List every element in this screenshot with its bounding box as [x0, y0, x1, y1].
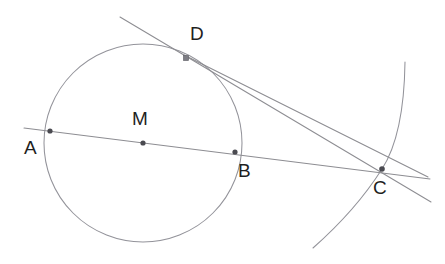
point-marker-a [47, 128, 52, 133]
point-marker-m [140, 140, 145, 145]
point-label-c: C [373, 178, 387, 197]
point-label-b: B [238, 161, 251, 180]
point-marker-c [379, 166, 385, 172]
line-tangent-dc [120, 17, 431, 202]
point-label-a: A [24, 138, 37, 157]
geometry-canvas [0, 0, 445, 264]
point-label-d: D [190, 24, 204, 43]
construction-arc [313, 62, 405, 248]
point-marker-b [232, 149, 237, 154]
point-label-m: M [132, 109, 148, 128]
geometry-figure: A M B D C [0, 0, 445, 264]
line-segment-dc [184, 55, 428, 177]
point-marker-d [183, 55, 188, 60]
line-abc [24, 128, 430, 179]
